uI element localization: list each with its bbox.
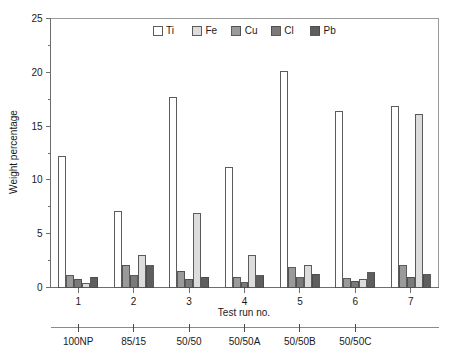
bar-ti-run4 [225, 168, 232, 288]
bar-cl-run7 [407, 277, 414, 287]
secondary-axis-label: 50/50C [339, 336, 371, 347]
bar-fe-run5 [304, 265, 311, 287]
bar-cu-run3 [178, 271, 185, 287]
y-axis-title: Weight percentage [8, 110, 19, 194]
x-tick-label: 5 [297, 296, 303, 307]
y-tick-label: 5 [37, 228, 43, 239]
bar-cu-run1 [67, 276, 74, 288]
secondary-axis-label: 50/50 [177, 336, 202, 347]
secondary-axis-label: 100NP [63, 336, 94, 347]
x-tick-label: 2 [131, 296, 137, 307]
bar-cl-run6 [352, 281, 359, 287]
legend-swatch-fe [192, 26, 201, 35]
bar-cu-run2 [122, 265, 129, 287]
legend-swatch-cu [232, 26, 241, 35]
bar-cu-run5 [288, 268, 295, 288]
bar-ti-run1 [59, 156, 66, 287]
bar-ti-run7 [391, 106, 398, 287]
bar-fe-run2 [138, 255, 145, 287]
bar-cl-run5 [296, 278, 303, 288]
legend-label-pb: Pb [324, 25, 337, 36]
bar-cu-run4 [233, 277, 240, 287]
bar-cl-run2 [130, 276, 137, 288]
chart-container: 0510152025 1234567 TiFeCuClPb Weight per… [0, 0, 456, 356]
bar-fe-run7 [415, 114, 422, 287]
x-tick-label: 4 [242, 296, 248, 307]
bar-fe-run1 [83, 284, 90, 288]
bar-pb-run7 [423, 275, 430, 288]
legend-label-cu: Cu [245, 25, 258, 36]
bar-ti-run2 [114, 212, 121, 288]
legend-swatch-cl [271, 26, 280, 35]
legend-swatch-pb [311, 26, 320, 35]
bar-ti-run6 [336, 111, 343, 287]
bar-cl-run1 [75, 279, 82, 287]
x-tick-label: 1 [75, 296, 81, 307]
secondary-axis-label: 85/15 [121, 336, 146, 347]
secondary-axis-label: 50/50A [229, 336, 261, 347]
secondary-axis-label: 50/50B [284, 336, 316, 347]
bar-pb-run2 [146, 266, 153, 288]
bar-ti-run5 [280, 72, 287, 288]
legend-label-fe: Fe [205, 25, 217, 36]
bar-cl-run4 [241, 283, 248, 288]
bar-fe-run6 [360, 279, 367, 287]
y-tick-label: 0 [37, 282, 43, 293]
bar-fe-run3 [194, 214, 201, 288]
bar-pb-run4 [257, 276, 264, 288]
bar-pb-run3 [202, 277, 209, 287]
y-tick-label: 20 [31, 67, 43, 78]
x-tick-label: 3 [186, 296, 192, 307]
weight-percentage-bar-chart: 0510152025 1234567 TiFeCuClPb Weight per… [0, 0, 456, 356]
legend-swatch-ti [153, 26, 162, 35]
bar-cu-run7 [399, 266, 406, 288]
x-tick-label: 6 [353, 296, 359, 307]
y-tick-label: 10 [31, 174, 43, 185]
bar-fe-run4 [249, 256, 256, 288]
x-axis-title: Test run no. [218, 307, 270, 318]
y-tick-label: 25 [31, 13, 43, 24]
legend-label-ti: Ti [166, 25, 174, 36]
bar-pb-run6 [368, 273, 375, 288]
x-tick-label: 7 [408, 296, 414, 307]
bar-pb-run1 [91, 277, 98, 287]
bar-cu-run6 [344, 279, 351, 288]
y-tick-label: 15 [31, 121, 43, 132]
legend-label-cl: Cl [284, 25, 293, 36]
bar-cl-run3 [186, 279, 193, 287]
bar-pb-run5 [312, 274, 319, 287]
bar-ti-run3 [170, 97, 177, 287]
